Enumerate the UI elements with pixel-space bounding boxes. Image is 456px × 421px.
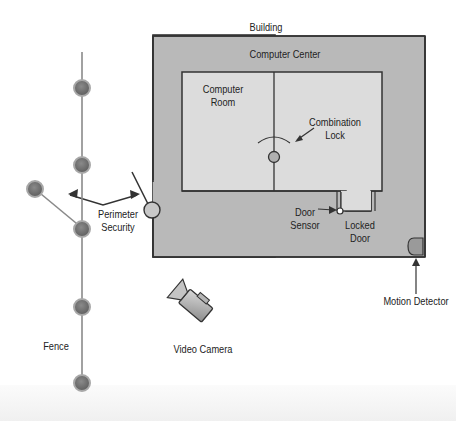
perimeter-security-label-line1: Perimeter [92, 208, 145, 220]
fence-post-icon [74, 299, 90, 315]
fence-post-icon [74, 375, 90, 391]
fence-post-icon [74, 221, 90, 237]
video-camera-icon [167, 278, 215, 324]
motion-detector-label: Motion Detector [372, 295, 456, 307]
video-camera-label: Video Camera [168, 343, 238, 355]
combination-lock-label-line2: Lock [304, 129, 366, 141]
computer-room-label-line2: Room [197, 96, 250, 108]
door-sensor-label-line1: Door [287, 206, 322, 218]
building-label: Building [240, 21, 293, 33]
door-sensor-label-line2: Sensor [287, 219, 322, 231]
locked-door-label-line1: Locked [338, 219, 382, 231]
fence-post-icon [27, 181, 43, 197]
perimeter-security-arrows [68, 189, 140, 205]
perimeter-security-label-line2: Security [92, 221, 145, 233]
fence-post-icon [74, 80, 90, 96]
locked-door-label-line2: Door [338, 232, 382, 244]
security-diagram [0, 0, 456, 421]
combination-lock-label-line1: Combination [304, 116, 366, 128]
fence-label: Fence [38, 340, 73, 352]
motion-detector-icon [408, 238, 423, 294]
computer-center-label: Computer Center [237, 48, 334, 60]
fence-post-icon [74, 157, 90, 173]
computer-room-label-line1: Computer [197, 83, 250, 95]
